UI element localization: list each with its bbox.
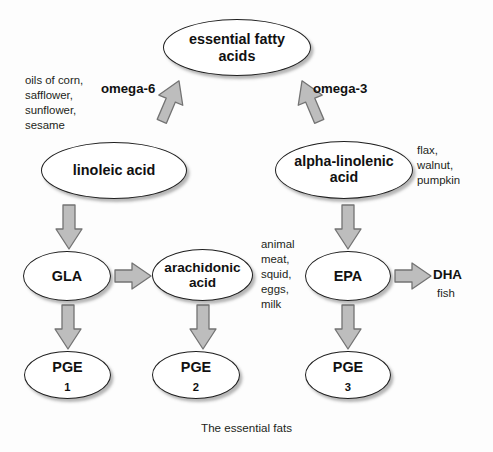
arrow-arachidonic-to-pge2 — [188, 303, 218, 351]
node-pge2-label: PGE2 — [169, 359, 223, 391]
node-linoleic-acid: linoleic acid — [41, 142, 187, 199]
node-pge1: PGE1 — [24, 351, 111, 399]
node-essential-fatty-acids: essential fatty acids — [163, 19, 311, 76]
node-pge2: PGE2 — [152, 351, 240, 399]
node-linoleic-acid-label: linoleic acid — [67, 162, 161, 178]
annotation-arachidonic-sources: animal meat, squid, eggs, milk — [261, 237, 295, 311]
node-alpha-linolenic-acid-label: alpha-linolenic acid — [276, 154, 412, 186]
arrow-epa-to-dha — [393, 261, 433, 291]
node-pge3: PGE3 — [305, 351, 391, 399]
edge-label-omega-6: omega-6 — [101, 81, 155, 96]
node-epa: EPA — [305, 251, 391, 301]
arrow-gla-to-arachidonic — [113, 261, 153, 291]
arrow-alpha-linolenic-to-epa — [333, 203, 363, 251]
edge-label-omega-3: omega-3 — [313, 81, 367, 96]
node-essential-fatty-acids-label: essential fatty acids — [164, 31, 310, 63]
arrow-gla-to-pge1 — [53, 303, 83, 351]
node-epa-label: EPA — [328, 268, 369, 284]
node-gla: GLA — [23, 251, 111, 301]
node-arachidonic-acid: arachidonic acid — [152, 249, 253, 301]
node-alpha-linolenic-acid: alpha-linolenic acid — [275, 141, 413, 199]
annotation-omega3-sources: flax, walnut, pumpkin — [417, 143, 460, 188]
node-dha-label: DHA — [433, 267, 462, 282]
annotation-dha-sources: fish — [437, 286, 455, 301]
node-arachidonic-acid-label: arachidonic acid — [153, 260, 252, 290]
node-pge3-label: PGE3 — [321, 359, 375, 391]
arrow-linoleic-to-gla — [54, 203, 84, 251]
node-gla-label: GLA — [46, 268, 88, 284]
figure-caption: The essential fats — [0, 421, 493, 434]
diagram-canvas: essential fatty acids linoleic acid alph… — [0, 0, 493, 452]
arrow-epa-to-pge3 — [333, 303, 363, 351]
node-pge1-label: PGE1 — [40, 359, 94, 391]
annotation-omega6-sources: oils of corn, safflower, sunflower, sesa… — [25, 73, 83, 133]
